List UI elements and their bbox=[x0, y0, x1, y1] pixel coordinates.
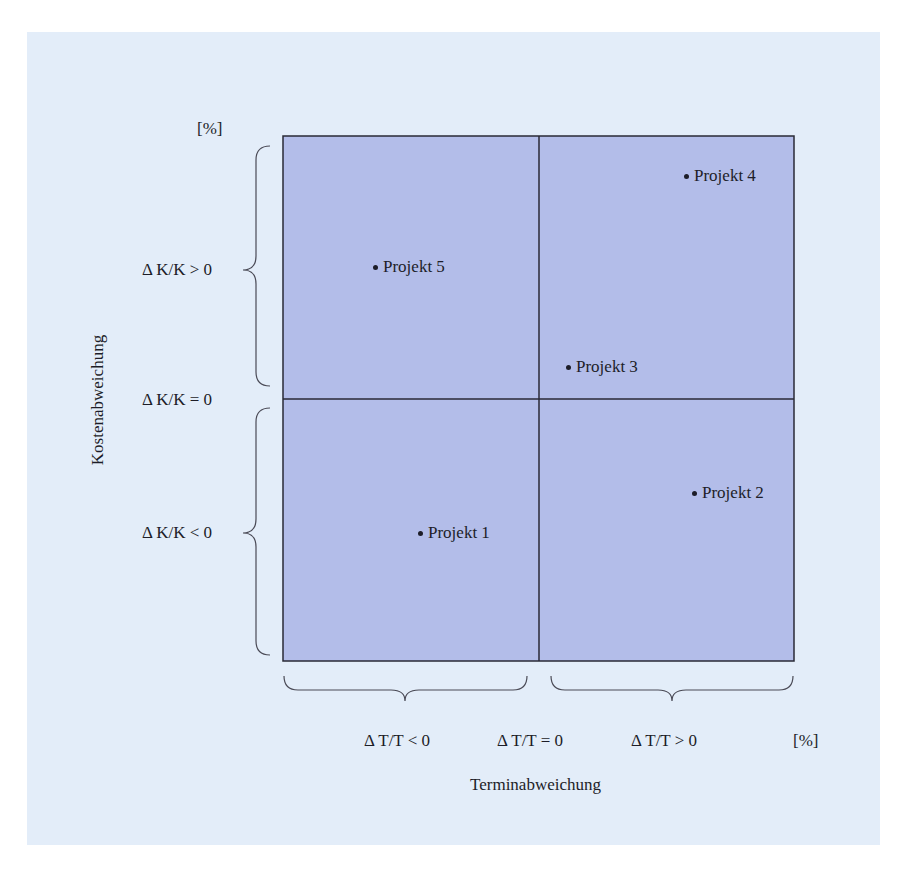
brace-lower-icon bbox=[243, 408, 270, 655]
project-3-point: Projekt 3 bbox=[566, 357, 638, 377]
y-label-negative: Δ K/K < 0 bbox=[142, 523, 212, 543]
x-label-negative: Δ T/T < 0 bbox=[364, 731, 430, 751]
brace-upper-icon bbox=[243, 146, 270, 386]
x-label-positive: Δ T/T > 0 bbox=[631, 731, 697, 751]
data-point-dot-icon bbox=[373, 265, 378, 270]
project-2-point: Projekt 2 bbox=[692, 483, 764, 503]
data-point-dot-icon bbox=[692, 491, 697, 496]
project-4-point: Projekt 4 bbox=[684, 166, 756, 186]
data-point-dot-icon bbox=[684, 174, 689, 179]
y-axis-title: Kostenabweichung bbox=[88, 335, 108, 465]
project-5-label: Projekt 5 bbox=[383, 257, 445, 276]
project-1-label: Projekt 1 bbox=[428, 523, 490, 542]
project-3-label: Projekt 3 bbox=[576, 357, 638, 376]
data-point-dot-icon bbox=[566, 365, 571, 370]
project-4-label: Projekt 4 bbox=[694, 166, 756, 185]
x-axis-title: Terminabweichung bbox=[470, 775, 601, 795]
x-label-zero: Δ T/T = 0 bbox=[497, 731, 563, 751]
project-5-point: Projekt 5 bbox=[373, 257, 445, 277]
portfolio-quadrant-diagram bbox=[0, 0, 910, 877]
brace-right-icon bbox=[551, 676, 793, 701]
x-axis-unit: [%] bbox=[793, 731, 818, 751]
project-1-point: Projekt 1 bbox=[418, 523, 490, 543]
y-label-positive: Δ K/K > 0 bbox=[142, 260, 212, 280]
brace-left-icon bbox=[284, 676, 527, 701]
data-point-dot-icon bbox=[418, 531, 423, 536]
y-label-zero: Δ K/K = 0 bbox=[142, 390, 212, 410]
y-axis-unit: [%] bbox=[197, 119, 222, 139]
project-2-label: Projekt 2 bbox=[702, 483, 764, 502]
